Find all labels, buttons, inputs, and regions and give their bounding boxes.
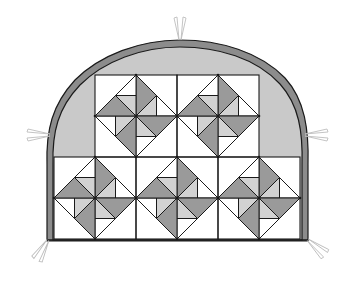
center-dot — [93, 196, 96, 199]
quilt-diagram: quilt-pattern — [0, 0, 352, 282]
center-dot — [134, 114, 137, 117]
center-dot — [216, 114, 219, 117]
left-marker-icon — [27, 129, 50, 141]
center-dot — [257, 196, 260, 199]
right-marker-icon — [305, 129, 328, 141]
quilt-svg — [0, 0, 352, 282]
top-marker-icon — [174, 17, 186, 40]
center-dot — [175, 196, 178, 199]
